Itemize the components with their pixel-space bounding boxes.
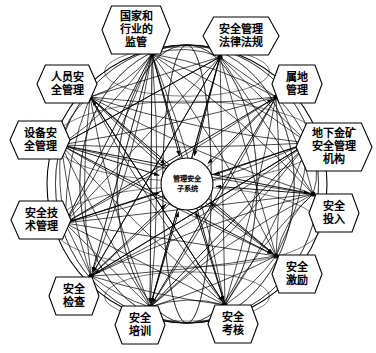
node-label-anquan-guanli-falu-fagui-line-1: 法律法规 [219,35,263,49]
node-label-anquan-touru-line-1: 投入 [323,212,345,226]
node-anquan-peixun[interactable]: 安全培训 [115,306,165,344]
node-label-anquan-touru-line-0: 安全 [323,199,346,213]
node-label-shebei-anquan-guanli-line-0: 设备安 [24,126,57,140]
node-label-renyuan-anquan-guanli-line-0: 人员安 [51,70,84,84]
node-label-anquan-kaohe-line-1: 考核 [222,323,244,337]
node-label-dixia-jinkuang-anquan-guanli-jigou-line-0: 地下金矿 [312,126,356,140]
node-label-anquan-jili-line-1: 激励 [286,273,308,287]
node-label-anquan-guanli-falu-fagui-line-0: 安全管理 [219,22,263,36]
center-node-group: 管理安全子系统 [161,158,213,210]
node-label-shudi-guanli-line-0: 属地 [286,70,308,84]
chord-anquan-jiancha-to-anquan-peixun [91,276,150,307]
node-label-dixia-jinkuang-anquan-guanli-jigou-line-2: 机构 [323,152,345,166]
sphere-network-diagram: 管理安全子系统 国家和行业的监管安全管理法律法规人员安全管理属地管理设备安全管理… [0,0,376,353]
center-node-label-line-0: 管理安全 [173,174,202,183]
node-label-anquan-jishu-guanli-line-0: 安全技 [25,206,59,220]
node-anquan-jiancha[interactable]: 安全检查 [49,277,99,315]
node-anquan-guanli-falu-fagui[interactable]: 安全管理法律法规 [203,17,279,55]
node-renyuan-anquan-guanli[interactable]: 人员安全管理 [37,65,97,103]
node-label-anquan-jiancha-line-0: 安全 [63,282,86,296]
node-shudi-guanli[interactable]: 属地管理 [272,65,322,103]
node-label-anquan-jishu-guanli-line-1: 术管理 [24,219,58,233]
node-anquan-jishu-guanli[interactable]: 安全技术管理 [11,201,71,239]
node-anquan-jili[interactable]: 安全激励 [272,255,322,293]
node-label-shudi-guanli-line-1: 管理 [286,83,308,97]
chord-shudi-guanli-to-shebei-anquan-guanli [61,97,276,145]
center-node-label-line-1: 子系统 [177,184,199,193]
chord-shudi-guanli-to-anquan-jili [276,97,279,256]
node-label-guojia-hangye-jianguan-line-2: 监管 [125,35,147,49]
node-label-guojia-hangye-jianguan-line-0: 国家和 [120,9,153,23]
node-label-dixia-jinkuang-anquan-guanli-jigou-line-1: 安全管理 [312,139,356,153]
diagram-canvas: 管理安全子系统 国家和行业的监管安全管理法律法规人员安全管理属地管理设备安全管理… [0,0,376,353]
node-label-anquan-peixun-line-0: 安全 [129,311,152,325]
node-label-anquan-kaohe-line-0: 安全 [222,310,245,324]
node-anquan-kaohe[interactable]: 安全考核 [208,305,258,343]
node-label-shebei-anquan-guanli-line-1: 全管理 [23,139,57,153]
node-label-anquan-jili-line-0: 安全 [286,260,309,274]
node-dixia-jinkuang-anquan-guanli-jigou[interactable]: 地下金矿安全管理机构 [296,123,372,171]
node-label-renyuan-anquan-guanli-line-1: 全管理 [50,83,84,97]
node-shebei-anquan-guanli[interactable]: 设备安全管理 [10,121,70,159]
node-label-guojia-hangye-jianguan-line-1: 行业的 [119,22,153,36]
node-label-anquan-peixun-line-1: 培训 [129,324,151,338]
node-guojia-hangye-jianguan[interactable]: 国家和行业的监管 [102,6,170,54]
node-label-anquan-jiancha-line-1: 检查 [63,295,85,309]
node-anquan-touru[interactable]: 安全投入 [309,194,359,232]
